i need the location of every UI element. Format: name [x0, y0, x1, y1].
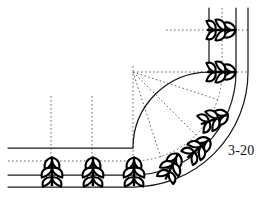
figure-label: 3-20: [228, 143, 254, 159]
plant-shrub-symbol: [124, 158, 145, 187]
plant-shrub-symbol: [197, 105, 231, 135]
band-edge-inner: [8, 8, 209, 148]
dotted-radial-ray: [133, 72, 219, 100]
plant-symbols: [42, 20, 236, 187]
plant-shrub-symbol: [83, 158, 104, 187]
plant-shrub-symbol: [206, 20, 235, 41]
dotted-radial-ray: [133, 72, 197, 136]
plant-shrub-symbol: [206, 62, 235, 83]
plant-shrub-symbol: [42, 158, 63, 187]
corner-planting-diagram: [0, 0, 268, 208]
dotted-radial-ray: [133, 72, 161, 158]
plant-shrub-symbol: [156, 149, 187, 184]
figure-container: 3-20: [0, 0, 268, 208]
